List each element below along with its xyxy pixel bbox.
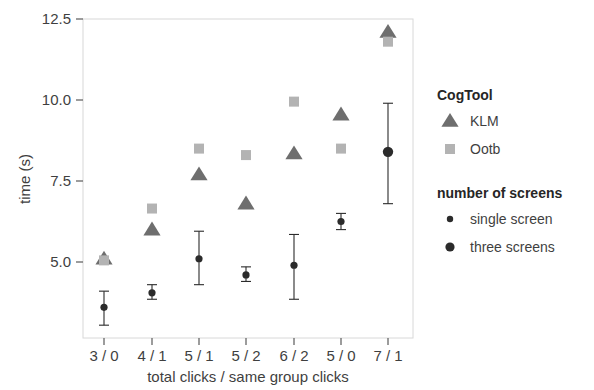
marker-circle [383,147,393,157]
marker-square [336,144,346,154]
legend-group-title: number of screens [437,185,562,201]
marker-square [383,37,393,47]
y-axis: 5.07.510.012.5 [42,10,83,270]
legend-entry-label: KLM [470,113,499,129]
x-tick-label: 6 / 2 [279,347,308,364]
marker-square [241,150,251,160]
x-axis-title: total clicks / same group clicks [147,368,349,385]
plot-panel [83,19,413,338]
marker-square [289,97,299,107]
marker-circle [148,289,155,296]
legend-entry-label: three screens [470,239,555,255]
marker-square [147,204,157,214]
legend-marker-triangle [441,113,458,127]
x-tick-label: 5 / 2 [231,347,260,364]
legend-group-title: CogTool [437,87,493,103]
x-tick-label: 7 / 1 [373,347,402,364]
y-tick-label: 5.0 [50,253,71,270]
x-tick-label: 3 / 0 [89,347,118,364]
scatter-plot: 5.07.510.012.5 3 / 04 / 15 / 15 / 26 / 2… [0,0,594,390]
x-tick-label: 4 / 1 [137,347,166,364]
marker-circle [100,304,107,311]
x-axis: 3 / 04 / 15 / 15 / 26 / 25 / 07 / 1 [89,338,402,364]
x-tick-label: 5 / 1 [184,347,213,364]
marker-square [194,144,204,154]
legend-marker-square [445,144,455,154]
chart-figure: 5.07.510.012.5 3 / 04 / 15 / 15 / 26 / 2… [0,0,594,390]
legend-entry-label: Ootb [470,141,501,157]
marker-circle [337,218,344,225]
legend-marker-large-circle [445,242,454,251]
legend: CogToolKLMOotbnumber of screenssingle sc… [437,87,562,255]
marker-circle [290,262,297,269]
y-tick-label: 10.0 [42,91,71,108]
marker-circle [195,255,202,262]
y-axis-title: time (s) [16,154,33,204]
marker-circle [242,271,249,278]
y-tick-label: 12.5 [42,10,71,27]
legend-entry-label: single screen [470,211,553,227]
marker-square [99,255,109,265]
y-tick-label: 7.5 [50,172,71,189]
x-tick-label: 5 / 0 [326,347,355,364]
legend-marker-small-circle [447,216,453,222]
